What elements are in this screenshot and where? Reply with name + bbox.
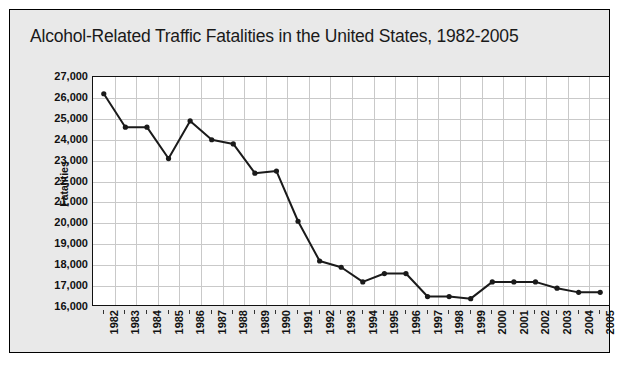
x-tick-label: 1999	[475, 310, 487, 356]
series-line	[104, 94, 600, 299]
x-tick-mark	[319, 310, 320, 314]
x-tick-label: 1985	[173, 310, 185, 356]
y-tick-label: 19,000	[14, 237, 88, 249]
x-tick-mark	[103, 310, 104, 314]
x-tick-label: 2002	[539, 310, 551, 356]
x-tick-mark	[599, 310, 600, 314]
data-point-marker	[511, 279, 516, 284]
data-point-marker	[166, 156, 171, 161]
x-tick-mark	[383, 310, 384, 314]
x-tick-label: 2000	[496, 310, 508, 356]
y-tick-label: 20,000	[14, 216, 88, 228]
y-tick-label: 25,000	[14, 112, 88, 124]
x-tick-mark	[534, 310, 535, 314]
y-axis-tick-labels: 27,00026,00025,00024,00023,00022,00021,0…	[10, 76, 88, 306]
y-tick-label: 22,000	[14, 175, 88, 187]
y-tick-label: 21,000	[14, 195, 88, 207]
x-tick-label: 1989	[259, 310, 271, 356]
x-tick-label: 1987	[216, 310, 228, 356]
x-tick-mark	[578, 310, 579, 314]
x-tick-mark	[189, 310, 190, 314]
y-tick-label: 24,000	[14, 133, 88, 145]
data-series	[93, 77, 611, 307]
x-tick-label: 1994	[367, 310, 379, 356]
x-tick-mark	[362, 310, 363, 314]
data-point-marker	[188, 118, 193, 123]
x-tick-label: 1998	[453, 310, 465, 356]
x-tick-mark	[513, 310, 514, 314]
x-tick-mark	[427, 310, 428, 314]
data-point-marker	[447, 294, 452, 299]
x-tick-mark	[448, 310, 449, 314]
data-point-marker	[490, 279, 495, 284]
data-point-marker	[252, 171, 257, 176]
data-point-marker	[295, 219, 300, 224]
chart-panel: Alcohol-Related Traffic Fatalities in th…	[9, 9, 610, 353]
y-tick-label: 17,000	[14, 279, 88, 291]
x-tick-label: 2001	[518, 310, 530, 356]
x-tick-mark	[168, 310, 169, 314]
x-tick-label: 1982	[108, 310, 120, 356]
x-tick-label: 1995	[388, 310, 400, 356]
data-point-marker	[382, 271, 387, 276]
data-point-marker	[274, 168, 279, 173]
x-tick-mark	[124, 310, 125, 314]
y-tick-label: 23,000	[14, 154, 88, 166]
x-tick-mark	[275, 310, 276, 314]
x-tick-label: 1992	[324, 310, 336, 356]
data-point-marker	[339, 265, 344, 270]
data-point-marker	[144, 125, 149, 130]
x-tick-mark	[146, 310, 147, 314]
x-tick-label: 1997	[432, 310, 444, 356]
data-point-marker	[468, 296, 473, 301]
x-tick-label: 2005	[604, 310, 616, 356]
data-point-marker	[425, 294, 430, 299]
chart-figure: Alcohol-Related Traffic Fatalities in th…	[0, 0, 619, 371]
x-tick-label: 1993	[345, 310, 357, 356]
x-tick-label: 2004	[583, 310, 595, 356]
plot-area	[92, 76, 610, 306]
data-point-marker	[360, 279, 365, 284]
y-tick-label: 16,000	[14, 300, 88, 312]
x-tick-label: 1988	[237, 310, 249, 356]
data-point-marker	[403, 271, 408, 276]
x-axis-tick-labels: 1982198319841985198619871988198919901991…	[92, 310, 610, 358]
x-tick-label: 2003	[561, 310, 573, 356]
data-point-marker	[576, 290, 581, 295]
x-tick-mark	[491, 310, 492, 314]
x-tick-mark	[211, 310, 212, 314]
data-point-marker	[317, 258, 322, 263]
y-tick-label: 26,000	[14, 91, 88, 103]
x-tick-label: 1990	[280, 310, 292, 356]
data-point-marker	[209, 137, 214, 142]
x-tick-mark	[556, 310, 557, 314]
x-tick-mark	[470, 310, 471, 314]
data-point-marker	[123, 125, 128, 130]
x-tick-mark	[405, 310, 406, 314]
x-tick-label: 1996	[410, 310, 422, 356]
chart-title: Alcohol-Related Traffic Fatalities in th…	[30, 26, 600, 47]
x-tick-label: 1984	[151, 310, 163, 356]
data-point-marker	[554, 286, 559, 291]
x-tick-mark	[297, 310, 298, 314]
y-tick-label: 18,000	[14, 258, 88, 270]
x-tick-label: 1986	[194, 310, 206, 356]
data-point-marker	[101, 91, 106, 96]
x-tick-mark	[254, 310, 255, 314]
y-tick-label: 27,000	[14, 70, 88, 82]
x-tick-label: 1983	[129, 310, 141, 356]
x-tick-mark	[232, 310, 233, 314]
x-tick-label: 1991	[302, 310, 314, 356]
data-point-marker	[231, 141, 236, 146]
source-note	[10, 358, 610, 370]
data-point-marker	[533, 279, 538, 284]
data-point-marker	[598, 290, 603, 295]
x-tick-mark	[340, 310, 341, 314]
